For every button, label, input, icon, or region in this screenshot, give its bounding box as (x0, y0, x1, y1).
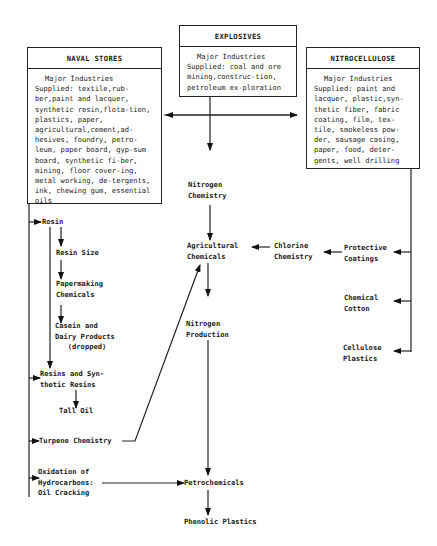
node-phenolic-plastics: Phenolic Plastics (184, 517, 257, 528)
explosives-box: EXPLOSIVES Major Industries Supplied: co… (179, 25, 297, 97)
node-resins-synthetic: Resins and Syn- thetic Resins (40, 369, 104, 390)
node-cellulose-plastics: Cellulose Plastics (343, 343, 381, 364)
node-casein-dairy: Casein and Dairy Products (dropped) (55, 321, 115, 353)
node-chemical-cotton: Chemical Cotton (344, 293, 378, 314)
node-papermaking-chemicals: Papermaking Chemicals (56, 279, 103, 300)
nitrocellulose-industries: Major Industries Supplied: paint and lac… (307, 69, 419, 170)
node-turpene-chemistry: Turpene Chemistry (39, 436, 112, 447)
node-protective-coatings: Protective Coatings (344, 243, 387, 264)
nitrocellulose-title: NITROCELLULOSE (307, 48, 419, 69)
node-rosin: Rosin (42, 217, 63, 228)
explosives-title: EXPLOSIVES (180, 26, 296, 47)
node-chlorine-chemistry: Chlorine Chemistry (274, 241, 312, 262)
naval-stores-box: NAVAL STORES Major Industries Supplied: … (27, 47, 162, 204)
node-agricultural-chemicals: Agricultural Chemicals (187, 241, 238, 262)
node-resin-size: Resin Size (56, 248, 99, 259)
nitrocellulose-box: NITROCELLULOSE Major Industries Supplied… (306, 47, 420, 169)
node-oxidation: Oxidation of Hydrocarbons: Oil Cracking (38, 467, 94, 499)
node-nitrogen-production: Nitrogen Production (186, 319, 229, 340)
node-petrochemicals: Petrochemicals (184, 478, 244, 489)
naval-stores-title: NAVAL STORES (28, 48, 161, 69)
explosives-industries: Major Industries Supplied: coal and ore … (180, 47, 296, 97)
naval-stores-industries: Major Industries Supplied: textile,rub-b… (28, 69, 161, 211)
node-nitrogen-chemistry: Nitrogen Chemistry (188, 180, 226, 201)
node-tall-oil: Tall Oil (59, 406, 93, 417)
